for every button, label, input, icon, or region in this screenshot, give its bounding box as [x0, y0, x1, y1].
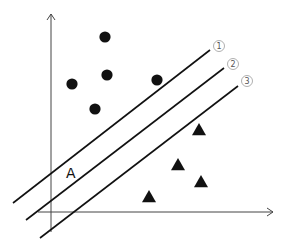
line-label-1: 1: [214, 41, 225, 52]
circle-point-icon: [89, 103, 100, 114]
svg-text:1: 1: [216, 42, 221, 51]
triangle-point-icon: [142, 190, 156, 202]
svg-text:2: 2: [230, 60, 235, 69]
triangle-point-icon: [192, 123, 206, 135]
hyperplane-line-3: [40, 86, 238, 238]
line-label-3: 3: [242, 76, 253, 87]
circle-point-icon: [66, 78, 77, 89]
point-label-a: A: [66, 165, 76, 181]
axes: [38, 14, 273, 232]
line-labels: 123: [214, 41, 253, 87]
separating-lines: [13, 50, 238, 238]
circle-point-icon: [101, 69, 112, 80]
circle-point-icon: [99, 31, 110, 42]
triangle-point-icon: [171, 158, 185, 170]
svm-diagram: 123 A: [0, 0, 283, 252]
circle-points: [66, 31, 162, 114]
hyperplane-line-2: [26, 68, 224, 220]
diagram-canvas: 123 A: [0, 0, 283, 252]
triangle-point-icon: [194, 175, 208, 187]
line-label-2: 2: [228, 59, 239, 70]
svg-text:3: 3: [244, 77, 249, 86]
circle-point-icon: [151, 74, 162, 85]
